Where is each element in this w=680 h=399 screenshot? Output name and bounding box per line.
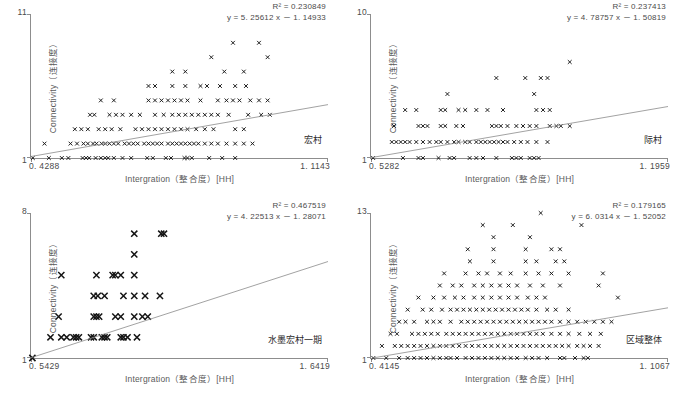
scatter-point [88,113,92,117]
scatter-point [504,320,508,324]
scatter-point [498,272,502,276]
scatter-point [408,140,412,144]
scatter-point [257,41,261,45]
scatter-plot-grid: 11 1 0. 4288 1. 1143 Connectivity（连接度） I… [0,0,680,399]
scatter-point [120,293,126,299]
scatter-point [535,296,539,300]
scatter-point [464,272,468,276]
scatter-point [543,296,547,300]
scatter-point [75,142,79,146]
scatter-point [519,156,523,160]
scatter-point [397,356,401,360]
scatter-point [86,127,90,131]
scatter-point [474,140,478,144]
scatter-point [521,124,525,128]
scatter-point [170,70,174,74]
scatter-point [483,356,487,360]
scatter-point [507,296,511,300]
scatter-point [160,142,164,146]
scatter-point [567,344,571,348]
scatter-point [47,156,51,160]
scatter-point [99,99,103,103]
scatter-point [446,140,450,144]
r-squared-label: R² = 0.467519 [227,201,326,212]
scatter-point [558,247,562,251]
scatter-point [69,142,73,146]
scatter-point [500,308,504,312]
y-axis-min-label: 1 [362,155,367,165]
scatter-point [419,356,423,360]
scatter-point [562,356,566,360]
scatter-point [524,320,528,324]
scatter-canvas-2 [31,213,328,358]
scatter-point [91,142,95,146]
scatter-point [131,231,137,237]
scatter-point [139,313,145,319]
scatter-point [537,272,541,276]
scatter-point [103,127,107,131]
scatter-point [164,156,168,160]
scatter-point [436,332,440,336]
scatter-point [494,124,498,128]
scatter-point [541,344,545,348]
scatter-point [114,113,118,117]
scatter-point [406,356,410,360]
scatter-point [55,313,61,319]
scatter-point [440,308,444,312]
scatter-point [225,142,229,146]
scatter-point [509,344,513,348]
scatter-point [183,84,187,88]
scatter-point [479,320,483,324]
scatter-point [514,156,518,160]
scatter-point [395,332,399,336]
scatter-point [616,296,620,300]
scatter-point [190,156,194,160]
scatter-point [251,142,255,146]
scatter-point [496,356,500,360]
scatter-point [160,99,164,103]
scatter-point [220,156,224,160]
scatter-point [437,156,441,160]
scatter-point [573,356,577,360]
scatter-point [455,356,459,360]
scatter-point [568,124,572,128]
scatter-point [457,332,461,336]
x-axis-max-label: 1. 1067 [640,361,670,371]
scatter-point [412,344,416,348]
scatter-point [530,320,534,324]
scatter-point [472,320,476,324]
scatter-point [548,108,552,112]
scatter-point [539,76,543,80]
scatter-point [140,127,144,131]
scatter-point [131,313,137,319]
scatter-point [203,127,207,131]
scatter-point [97,127,101,131]
scatter-point [179,99,183,103]
scatter-point [414,108,418,112]
scatter-point [449,308,453,312]
r-squared-label: R² = 0.237413 [567,2,666,13]
scatter-point [550,332,554,336]
scatter-point [145,156,149,160]
scatter-point [470,356,474,360]
chart-panel-jicun: 10 1 0. 5282 1. 1959 Connectivity（连接度） I… [340,0,680,199]
scatter-point [417,332,421,336]
scatter-point [129,113,133,117]
scatter-point [94,156,98,160]
scatter-point [389,332,393,336]
scatter-point [196,113,200,117]
scatter-point [512,140,516,144]
scatter-point [147,84,151,88]
scatter-point [123,142,127,146]
scatter-point [414,140,418,144]
scatter-point [73,127,77,131]
scatter-point [426,124,430,128]
scatter-point [248,99,252,103]
scatter-point [266,55,270,59]
scatter-point [421,140,425,144]
scatter-point [468,259,472,263]
scatter-point [145,313,151,319]
y-axis-max-label: 11 [18,7,27,17]
scatter-point [526,296,530,300]
scatter-point [451,332,455,336]
